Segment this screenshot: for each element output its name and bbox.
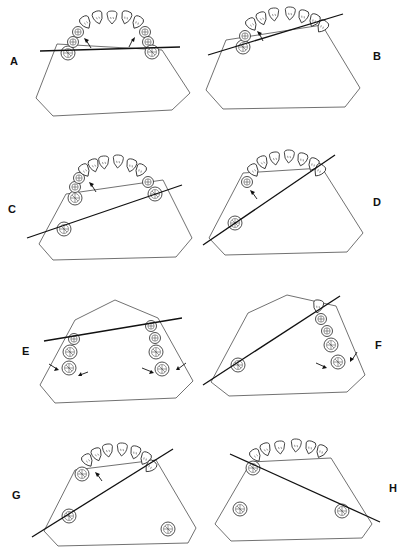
arrow-icon xyxy=(350,352,357,362)
isolated-molar-right xyxy=(335,504,349,518)
panel-c xyxy=(27,155,192,260)
reference-line xyxy=(230,454,380,522)
panel-g xyxy=(32,443,196,546)
panel-h xyxy=(215,439,380,541)
panel-label-a: A xyxy=(10,55,18,67)
cast-outline xyxy=(206,25,360,109)
reference-line xyxy=(44,318,182,341)
arrow-icon xyxy=(49,364,59,371)
arrow-icon xyxy=(129,37,135,47)
panel-d xyxy=(203,150,363,255)
dental-arch xyxy=(246,439,328,475)
cast-outline xyxy=(209,168,363,255)
panel-label-h: H xyxy=(389,482,397,494)
arrow-icon xyxy=(142,368,154,374)
arrow-icon xyxy=(84,38,91,48)
isolated-molar-right xyxy=(161,522,175,536)
panel-label-b: B xyxy=(373,50,381,62)
cast-outline xyxy=(39,180,192,260)
panel-a xyxy=(36,10,190,116)
cast-outline xyxy=(211,295,365,396)
dental-arch xyxy=(61,10,159,60)
right-posterior-segment xyxy=(146,321,170,377)
reference-line xyxy=(203,155,335,245)
right-posterior-segment xyxy=(312,299,345,369)
panel-label-f: F xyxy=(375,339,382,351)
panel-label-g: G xyxy=(12,489,21,501)
reference-line xyxy=(203,296,340,385)
dental-cast-diagram-figure: A B xyxy=(0,0,406,552)
panel-f xyxy=(203,295,365,396)
cast-outline xyxy=(215,458,372,541)
dental-arch xyxy=(236,7,330,54)
isolated-molar-left xyxy=(233,502,247,516)
dental-arch xyxy=(68,155,162,205)
reference-line xyxy=(27,185,182,238)
arrow-icon xyxy=(250,190,257,199)
arrow-icon xyxy=(95,472,102,481)
cast-outline xyxy=(36,44,190,116)
arrow-icon xyxy=(176,363,186,370)
panel-label-d: D xyxy=(373,196,381,208)
arrow-icon xyxy=(316,363,327,369)
reference-line xyxy=(32,449,173,537)
dental-arch xyxy=(75,443,158,481)
panel-label-c: C xyxy=(8,203,16,215)
panel-label-e: E xyxy=(22,345,29,357)
arrow-icon xyxy=(78,372,88,376)
panel-b xyxy=(206,7,360,109)
panel-e xyxy=(40,300,193,403)
